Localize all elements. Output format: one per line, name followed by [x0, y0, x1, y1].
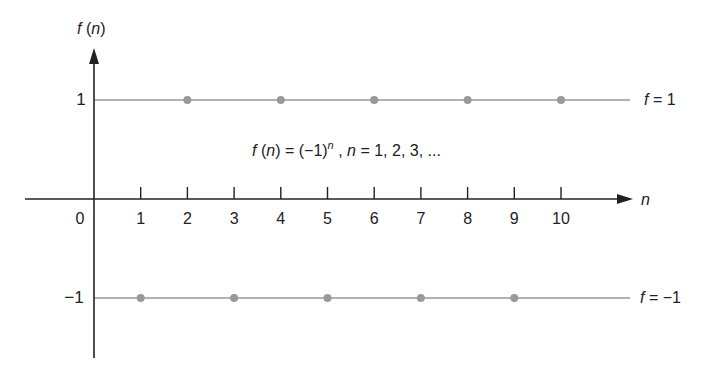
- x-tick-label: 2: [183, 210, 192, 227]
- x-tick-label: 3: [230, 210, 239, 227]
- origin-label: 0: [76, 210, 85, 227]
- data-point: [324, 294, 332, 302]
- line-label-pos: f = 1: [644, 91, 676, 108]
- y-axis-label: f (n): [77, 20, 105, 37]
- x-tick-label: 4: [276, 210, 285, 227]
- data-point: [277, 96, 285, 104]
- x-tick-label: 9: [510, 210, 519, 227]
- data-point: [510, 294, 518, 302]
- data-point: [230, 294, 238, 302]
- line-label-neg: f = −1: [640, 289, 681, 306]
- data-point: [557, 96, 565, 104]
- x-tick-label: 5: [323, 210, 332, 227]
- data-point: [417, 294, 425, 302]
- y-tick-label-pos: 1: [76, 90, 85, 109]
- y-tick-label-neg: −1: [64, 288, 83, 307]
- x-tick-label: 7: [416, 210, 425, 227]
- data-point: [464, 96, 472, 104]
- x-tick-label: 1: [136, 210, 145, 227]
- equation-annotation: f (n) = (−1)n , n = 1, 2, 3, ...: [252, 139, 441, 159]
- x-tick-label: 8: [463, 210, 472, 227]
- data-point: [370, 96, 378, 104]
- y-axis-arrow-icon: [89, 48, 99, 64]
- x-tick-label: 10: [552, 210, 570, 227]
- axes: [25, 48, 633, 358]
- x-ticks: 12345678910: [136, 187, 570, 227]
- data-point: [137, 294, 145, 302]
- x-axis-label: n: [641, 191, 650, 208]
- x-tick-label: 6: [370, 210, 379, 227]
- sequence-plot: 12345678910 f (n) n 0 1 −1 f = 1 f = −1 …: [0, 0, 718, 370]
- data-point: [183, 96, 191, 104]
- x-axis-arrow-icon: [617, 194, 633, 204]
